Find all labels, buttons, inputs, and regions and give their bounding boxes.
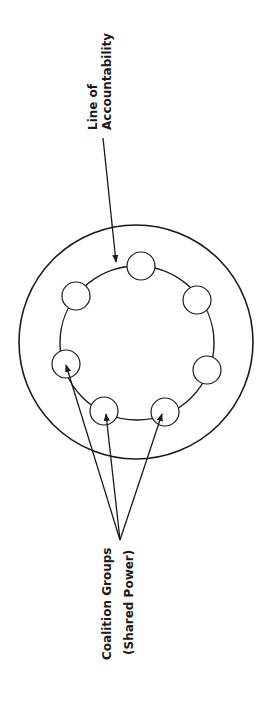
coalition-node-bottom-right — [151, 398, 179, 426]
coalition-node-upper-right — [183, 286, 211, 314]
accountability-label-line1: Line of — [86, 83, 100, 130]
coalition-label-line2: (Shared Power) — [122, 550, 136, 655]
coalition-diagram: Line of Accountability Coalition Groups … — [0, 0, 263, 708]
accountability-arrow — [103, 138, 116, 262]
coalition-node-left — [52, 350, 80, 378]
coalition-arrows — [66, 365, 162, 540]
coalition-node-upper-left — [62, 282, 90, 310]
coalition-label-line1: Coalition Groups — [100, 548, 114, 660]
coalition-node-top — [127, 252, 155, 280]
coalition-node-right — [193, 356, 221, 384]
accountability-label-line2: Accountability — [100, 33, 114, 130]
coalition-node-bottom-left — [90, 397, 118, 425]
